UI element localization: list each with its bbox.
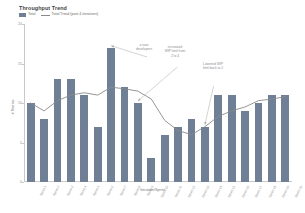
annotation-increased-wip-limit: increased WIP limit from 2 to 4 (158, 45, 192, 58)
legend-item-total[interactable]: Total (19, 13, 36, 17)
trend-line-path (31, 87, 286, 134)
legend-swatch-icon (19, 13, 26, 17)
legend-label-trend: Total Trend (past 4 iterations) (52, 13, 99, 17)
x-axis-tick-label: Sprint 1 (39, 185, 48, 197)
x-axis-tick-label: Sprint 6 (106, 185, 115, 197)
x-axis-tick-label: Sprint 16 (240, 185, 250, 198)
legend-item-trend[interactable]: Total Trend (past 4 iterations) (41, 13, 99, 17)
x-axis-tick-label: Sprint 15 (227, 185, 237, 198)
x-axis-tick-label: Sprint 14 (214, 185, 224, 198)
x-axis-title: Iteration/Sprint (140, 188, 165, 192)
y-axis-title: # Stories (11, 99, 15, 114)
x-axis-tick-label: Sprint 19 (281, 185, 291, 198)
x-axis-tick-label: Sprint 20 (294, 185, 304, 198)
legend-line-icon (41, 15, 50, 16)
legend-label-total: Total (28, 13, 36, 17)
x-axis-tick-label: Sprint 2 (52, 185, 61, 197)
y-axis-tick-mark (22, 182, 24, 183)
x-axis-tick-label: Sprint 18 (267, 185, 277, 198)
x-axis-tick-label: Sprint 5 (92, 185, 101, 197)
x-axis-tick-label: Sprint 4 (79, 185, 88, 197)
x-axis-tick-label: Sprint 7 (119, 185, 128, 197)
x-axis-tick-label: Sprint 13 (200, 185, 210, 198)
x-axis-tick-label: Sprint 17 (254, 185, 264, 198)
chart-legend: Total Total Trend (past 4 iterations) (19, 13, 98, 17)
annotation-scrum-development: a new developers (127, 43, 161, 52)
x-axis-tick-label: Sprint 11 (173, 185, 182, 198)
annotation-lowered-wip-limit: Lowered WIP limit back to 2 (196, 62, 230, 71)
x-axis-tick-label: Sprint 12 (187, 185, 197, 198)
throughput-trend-chart: Throughput Trend Total Total Trend (past… (0, 0, 305, 213)
x-axis-tick-label: Sprint 3 (65, 185, 74, 197)
chart-title: Throughput Trend (19, 5, 67, 11)
